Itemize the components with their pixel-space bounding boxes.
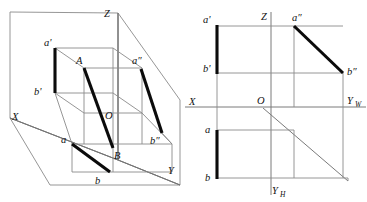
ortho-label-x: X <box>188 96 196 107</box>
figure-root: Z X Y O A B a' b' a″ b″ a b <box>0 0 367 202</box>
ortho-label-b-top: b <box>205 172 210 183</box>
ortho-label-yh-sub: H <box>279 190 286 199</box>
pictorial-label-b-top: b <box>95 175 100 186</box>
ortho-label-b-front: b' <box>203 63 211 74</box>
ortho-label-z: Z <box>261 11 267 22</box>
ortho-label-yw-sub: W <box>355 100 362 109</box>
pictorial-label-y: Y <box>168 165 175 176</box>
ortho-label-a-top: a <box>205 124 210 135</box>
pictorial-label-a-side: a″ <box>132 55 142 66</box>
pictorial-label-x: X <box>11 111 19 122</box>
ortho-label-yh-group: Y H <box>272 185 286 199</box>
segment-ab-true-length <box>84 68 113 148</box>
ortho-label-origin: O <box>257 95 265 106</box>
pictorial-label-B: B <box>114 150 121 161</box>
orthographic-view: a' b' a″ b″ a b Z X O Y W Y H <box>185 11 366 199</box>
w-plane-outline <box>118 13 180 185</box>
segment-ab-top-projection <box>72 144 110 172</box>
pictorial-view: Z X Y O A B a' b' a″ b″ a b <box>10 8 180 186</box>
ortho-label-yh: Y <box>272 185 279 196</box>
descriptive-geometry-figure: Z X Y O A B a' b' a″ b″ a b <box>0 0 367 202</box>
pictorial-label-b-front: b' <box>34 86 42 97</box>
front-view-construction <box>217 26 343 107</box>
pictorial-label-a-front: a' <box>44 37 52 48</box>
pictorial-label-a-top: a <box>61 134 66 145</box>
pictorial-label-A: A <box>75 55 83 66</box>
pictorial-label-z: Z <box>104 8 110 19</box>
bisector-45 <box>263 108 348 181</box>
top-view-construction <box>217 107 348 181</box>
ortho-axes <box>185 12 366 195</box>
pictorial-label-origin: O <box>105 110 113 121</box>
ortho-label-a-front: a' <box>203 14 211 25</box>
pictorial-label-b-side: b″ <box>150 135 160 146</box>
ortho-label-a-side: a″ <box>292 12 302 23</box>
ortho-label-b-side: b″ <box>347 66 357 77</box>
ortho-side-projection-ab <box>294 26 343 73</box>
ortho-label-yw: Y <box>347 95 354 106</box>
